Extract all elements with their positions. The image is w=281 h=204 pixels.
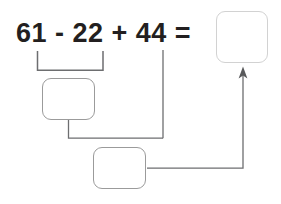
step-2-box[interactable]: [93, 147, 146, 189]
step-1-box[interactable]: [42, 78, 95, 120]
step-2-box-value: [94, 148, 145, 188]
arrow-step2-to-answer: [147, 67, 247, 169]
answer-box[interactable]: [216, 11, 268, 63]
answer-box-value: [217, 12, 267, 62]
bracket-under-61-minus-22: [38, 51, 104, 70]
connector-step1-to-step2: [69, 120, 164, 138]
step-1-box-value: [43, 79, 94, 119]
math-worksheet-canvas: 61 - 22 + 44 =: [0, 0, 281, 204]
